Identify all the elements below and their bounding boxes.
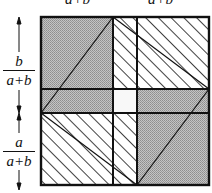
arrow-b-down bbox=[17, 90, 21, 113]
arrow-a-up bbox=[17, 113, 21, 133]
fraction-a: a a+b bbox=[1, 134, 37, 169]
fraction-b-numerator: b bbox=[1, 53, 37, 69]
fraction-bar bbox=[3, 70, 35, 71]
top-label-right: a+b bbox=[148, 0, 173, 7]
fraction-b-denominator: a+b bbox=[1, 72, 37, 88]
arrow-a-down bbox=[17, 170, 21, 190]
fraction-b: b a+b bbox=[1, 53, 37, 88]
arrow-b-up bbox=[17, 17, 21, 52]
fraction-a-denominator: a+b bbox=[1, 153, 37, 169]
fraction-a-numerator: a bbox=[1, 134, 37, 150]
top-label-left: a+b bbox=[65, 0, 90, 7]
fraction-bar bbox=[3, 151, 35, 152]
region-center bbox=[113, 89, 137, 113]
